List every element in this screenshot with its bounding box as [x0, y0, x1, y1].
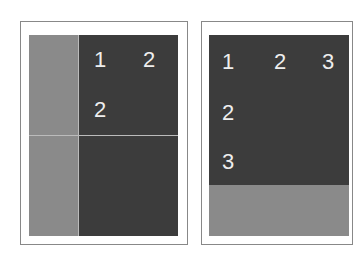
right-panel-gray-row — [209, 185, 349, 236]
left-label-0: 1 — [94, 49, 106, 71]
right-label-4: 3 — [222, 151, 234, 173]
left-panel-vertical-divider — [78, 35, 79, 236]
left-label-1: 2 — [143, 49, 155, 71]
left-panel-horizontal-divider — [29, 135, 178, 136]
right-label-2: 3 — [322, 51, 334, 73]
right-label-1: 2 — [274, 51, 286, 73]
right-label-3: 2 — [222, 102, 234, 124]
left-label-2: 2 — [94, 99, 106, 121]
right-label-0: 1 — [222, 51, 234, 73]
